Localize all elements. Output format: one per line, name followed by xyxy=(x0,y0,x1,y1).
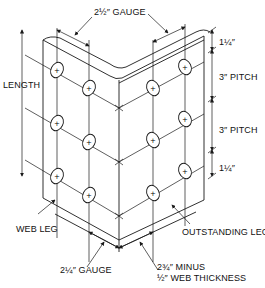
svg-text:+: + xyxy=(54,120,60,128)
rivet-icon: + xyxy=(176,109,194,129)
diagram-drawing: + + + + + + + + + + + + xyxy=(0,0,265,288)
web-thickness-label-1: 2¾″ MINUS xyxy=(157,262,205,272)
rivet-icon: + xyxy=(144,130,162,150)
end-distance-top-label: 1¼″ xyxy=(219,37,236,47)
svg-text:+: + xyxy=(150,137,156,145)
length-label: LENGTH xyxy=(3,80,40,90)
svg-text:+: + xyxy=(182,116,188,124)
svg-text:+: + xyxy=(182,168,188,176)
angle-iron-diagram: + + + + + + + + + + + + xyxy=(0,0,265,288)
rivet-row-lines xyxy=(25,55,204,219)
svg-text:+: + xyxy=(54,67,60,75)
top-gauge-label: 2½″ GAUGE xyxy=(94,7,146,17)
web-leg-label: WEB LEG xyxy=(16,224,58,234)
svg-text:+: + xyxy=(54,173,60,181)
rivet-icon: + xyxy=(80,132,98,152)
pitch-label-1: 3″ PITCH xyxy=(219,72,258,82)
svg-text:+: + xyxy=(86,85,92,93)
svg-text:+: + xyxy=(150,85,156,93)
rivet-icon: + xyxy=(176,57,194,77)
svg-text:+: + xyxy=(86,139,92,147)
bottom-gauge-label: 2¼″ GAUGE xyxy=(60,265,112,275)
svg-text:+: + xyxy=(182,64,188,72)
outstanding-leg-label: OUTSTANDING LEG xyxy=(182,227,265,237)
end-distance-bottom-label: 1¼″ xyxy=(219,163,236,173)
svg-text:+: + xyxy=(150,190,156,198)
web-thickness-label-2: ½″ WEB THICKNESS xyxy=(157,273,246,283)
rivet-icon: + xyxy=(176,161,194,181)
svg-text:+: + xyxy=(86,192,92,200)
rivet-icon: + xyxy=(144,78,162,98)
pitch-label-2: 3″ PITCH xyxy=(219,125,258,135)
